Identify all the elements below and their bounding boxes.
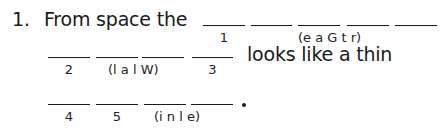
answer-blank-2[interactable] (48, 57, 90, 58)
blank-number-label: 3 (192, 63, 233, 76)
answer-blank-1c[interactable] (298, 25, 340, 26)
answer-blank-2c[interactable] (142, 57, 184, 58)
answer-blank-5[interactable] (96, 104, 138, 105)
blank-number-label: 1 (203, 31, 245, 44)
word-hint-label: (i n l e) (154, 110, 200, 123)
question-number: 1. (12, 10, 30, 29)
answer-blank-4[interactable] (48, 104, 90, 105)
answer-blank-5d[interactable] (191, 104, 233, 105)
blank-number-label: 2 (48, 63, 90, 76)
answer-blank-5c[interactable] (144, 104, 186, 105)
answer-blank-1e[interactable] (395, 25, 437, 26)
end-period (242, 103, 246, 107)
answer-blank-1b[interactable] (251, 25, 292, 26)
blank-number-label: 4 (48, 110, 90, 123)
word-hint-label: (l a l W) (108, 63, 159, 76)
answer-blank-2b[interactable] (96, 57, 138, 58)
question-intro-text: From space the (44, 10, 187, 29)
answer-blank-1[interactable] (203, 25, 245, 26)
question-middle-text: looks like a thin (247, 45, 392, 64)
answer-blank-3[interactable] (192, 57, 233, 58)
blank-number-label: 5 (96, 110, 138, 123)
answer-blank-1d[interactable] (347, 25, 389, 26)
